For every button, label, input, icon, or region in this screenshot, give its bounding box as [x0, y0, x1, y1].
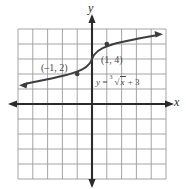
- curve-arrow-right: [155, 31, 164, 38]
- y-axis-arrow-bottom: [88, 179, 95, 188]
- point-label-a: (–1, 2): [41, 63, 68, 73]
- point-marker-b: [105, 42, 110, 47]
- x-axis-arrow-right: [165, 100, 174, 107]
- radicand: x: [120, 76, 126, 87]
- y-axis-arrow-top: [88, 14, 95, 23]
- equation-label: y = 3√x + 3: [96, 78, 140, 87]
- y-axis: [88, 14, 95, 188]
- graph-canvas: [0, 0, 186, 189]
- y-axis-label: y: [88, 2, 93, 14]
- x-axis-label: x: [174, 96, 179, 108]
- x-axis-arrow-left: [8, 100, 17, 107]
- equation-tail: + 3: [126, 77, 140, 87]
- radical-index: 3: [110, 74, 113, 80]
- cube-root-radical: 3√x: [110, 78, 126, 87]
- radical-symbol: √: [115, 77, 120, 87]
- cube-root-function-figure: y x (–1, 2) (1, 4) y = 3√x + 3: [0, 0, 186, 189]
- point-label-b: (1, 4): [101, 55, 123, 65]
- curve-arrow-left: [19, 82, 28, 89]
- equation-equals: =: [100, 77, 110, 87]
- point-marker-a: [75, 72, 80, 77]
